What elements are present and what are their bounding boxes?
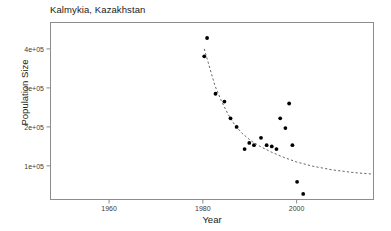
x-tick-label: 2000: [289, 205, 305, 212]
y-tick-label: 3e+05: [8, 84, 44, 91]
chart-title: Kalmykia, Kazakhstan: [50, 4, 145, 15]
scatter-plot-figure: Kalmykia, Kazakhstan Population Size Yea…: [0, 0, 391, 231]
plot-panel: [50, 22, 374, 200]
y-tick-label: 4e+05: [8, 45, 44, 52]
x-tick-label: 1960: [101, 205, 117, 212]
x-axis-title: Year: [50, 214, 374, 225]
y-tick-label: 2e+05: [8, 123, 44, 130]
y-tick-label: 1e+05: [8, 162, 44, 169]
x-axis-tick-marks: [109, 200, 297, 204]
x-tick-label: 1980: [195, 205, 211, 212]
